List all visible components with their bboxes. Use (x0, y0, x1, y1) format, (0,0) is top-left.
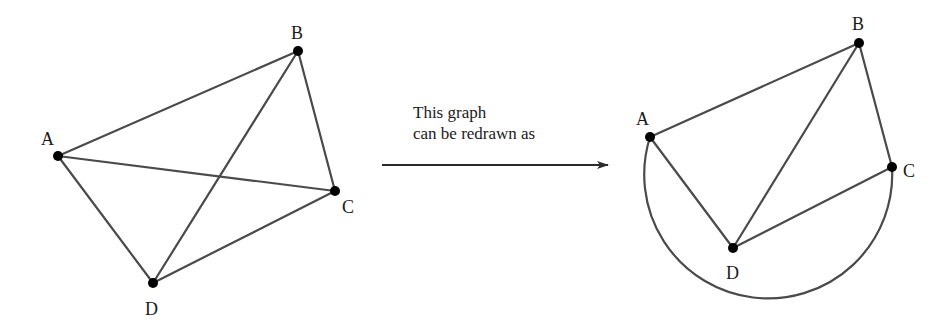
vertex-label-a-redrawn: A (636, 109, 649, 129)
original-graph: A B C D (41, 23, 354, 319)
vertex-c-redrawn (887, 162, 897, 172)
redrawn-graph: A B C D (636, 14, 915, 298)
vertex-label-b: B (291, 23, 303, 43)
edge-a-d-redrawn (650, 137, 733, 248)
vertex-label-d-redrawn: D (726, 263, 739, 283)
vertex-a-redrawn (645, 132, 655, 142)
transform-arrow: This graph can be redrawn as (382, 103, 608, 165)
vertex-a (53, 151, 63, 161)
edge-a-d (58, 156, 153, 283)
vertex-b (293, 46, 303, 56)
edge-c-d (153, 191, 335, 283)
vertex-label-d: D (145, 299, 158, 319)
vertex-label-c: C (342, 197, 354, 217)
edge-b-d (153, 51, 298, 283)
vertex-label-b-redrawn: B (852, 14, 864, 34)
edge-b-c (298, 51, 335, 191)
edge-a-c (58, 156, 335, 191)
edge-a-c-curved (644, 137, 892, 298)
vertex-label-c-redrawn: C (903, 161, 915, 181)
graph-redraw-diagram: A B C D This graph can be redrawn as A B… (0, 0, 952, 327)
arrow-caption-line2: can be redrawn as (413, 124, 535, 143)
vertex-label-a: A (41, 129, 54, 149)
vertex-b-redrawn (854, 38, 864, 48)
edge-b-d-redrawn (733, 43, 859, 248)
vertex-d (148, 278, 158, 288)
edge-b-c-redrawn (859, 43, 892, 167)
edge-a-b-redrawn (650, 43, 859, 137)
edge-a-b (58, 51, 298, 156)
arrow-caption-line1: This graph (413, 103, 487, 122)
vertex-d-redrawn (728, 243, 738, 253)
vertex-c (330, 186, 340, 196)
